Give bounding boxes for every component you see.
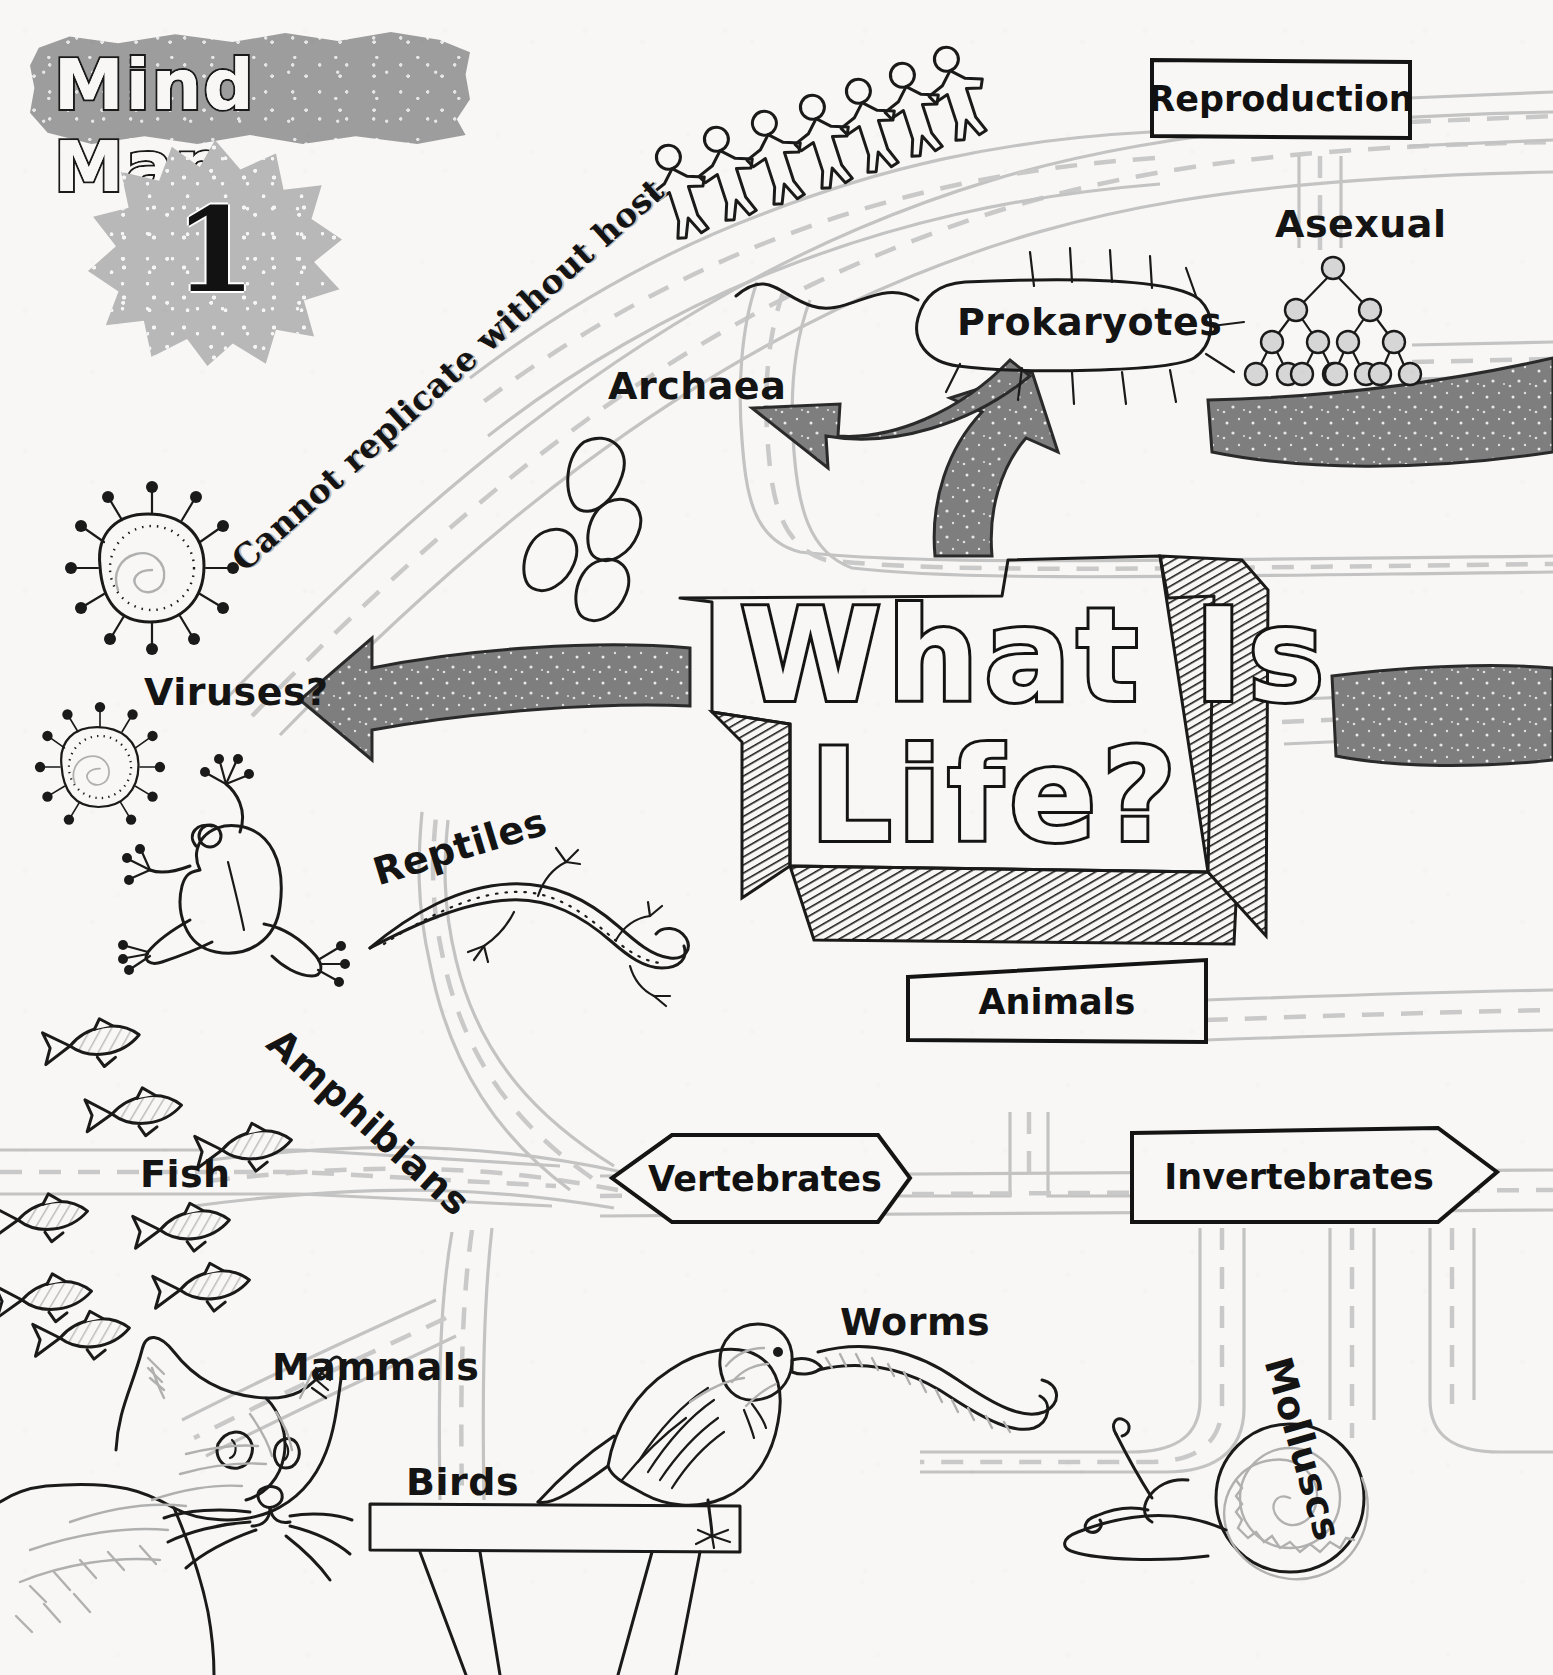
fish-label: Fish xyxy=(140,1152,231,1196)
prokaryotes-label: Prokaryotes xyxy=(957,300,1222,344)
node-birds[interactable]: Birds xyxy=(406,1460,519,1504)
node-invertebrates[interactable]: Invertebrates xyxy=(1140,1138,1458,1216)
invertebrates-label: Invertebrates xyxy=(1164,1157,1433,1197)
node-vertebrates[interactable]: Vertebrates xyxy=(630,1140,900,1218)
node-archaea[interactable]: Archaea xyxy=(608,364,786,408)
viruses-label: Viruses? xyxy=(144,670,329,714)
node-fish[interactable]: Fish xyxy=(140,1152,231,1196)
worms-label: Worms xyxy=(840,1300,990,1344)
archaea-label: Archaea xyxy=(608,364,786,408)
vertebrates-label: Vertebrates xyxy=(648,1159,882,1199)
node-prokaryotes[interactable]: Prokaryotes xyxy=(957,300,1222,344)
node-mammals[interactable]: Mammals xyxy=(272,1345,479,1389)
asexual-label: Asexual xyxy=(1275,202,1447,246)
node-reproduction[interactable]: Reproduction xyxy=(1152,60,1410,138)
boxes-layer xyxy=(0,0,1553,1675)
node-worms[interactable]: Worms xyxy=(840,1300,990,1344)
mind-map-canvas: .rd { fill:none; stroke:#c3c3c3; stroke-… xyxy=(0,0,1553,1675)
animals-label: Animals xyxy=(979,982,1136,1022)
reproduction-label: Reproduction xyxy=(1148,79,1413,119)
birds-label: Birds xyxy=(406,1460,519,1504)
node-animals[interactable]: Animals xyxy=(908,962,1206,1042)
node-viruses[interactable]: Viruses? xyxy=(144,670,329,714)
mammals-label: Mammals xyxy=(272,1345,479,1389)
node-asexual[interactable]: Asexual xyxy=(1275,202,1447,246)
